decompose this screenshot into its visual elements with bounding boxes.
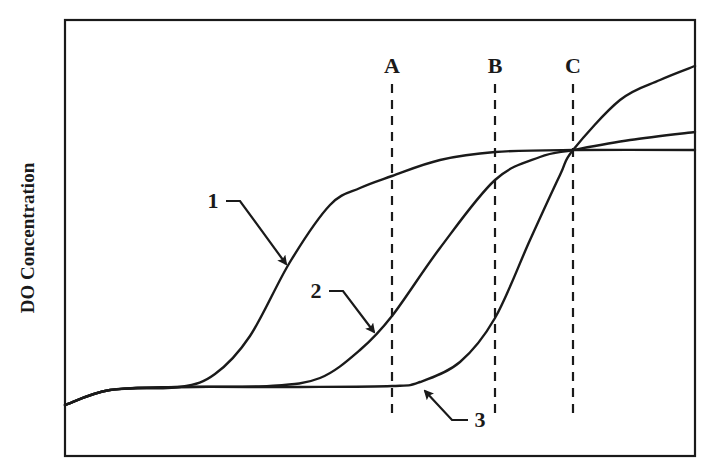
y-axis-label-text: DO Concentration [17,163,39,313]
plot-frame [65,20,695,456]
y-axis-label: DO Concentration [17,218,39,258]
reference-lines [392,84,573,418]
reference-label-b: B [488,53,503,78]
chart-canvas: ABC 123 [0,0,715,476]
curve-label-2: 2 [311,278,322,303]
reference-labels: ABC [384,53,581,78]
curve-label-1: 1 [208,188,219,213]
curve-2 [65,132,695,405]
annotation-arrow-2 [329,291,374,332]
curve-annotations: 123 [208,188,486,432]
reference-label-a: A [384,53,400,78]
curve-3 [65,66,695,405]
curve-1 [65,150,695,405]
curve-label-3: 3 [475,407,486,432]
annotation-arrow-1 [226,201,286,264]
annotation-arrow-3 [425,391,468,420]
reference-label-c: C [565,53,581,78]
curves [65,66,695,405]
